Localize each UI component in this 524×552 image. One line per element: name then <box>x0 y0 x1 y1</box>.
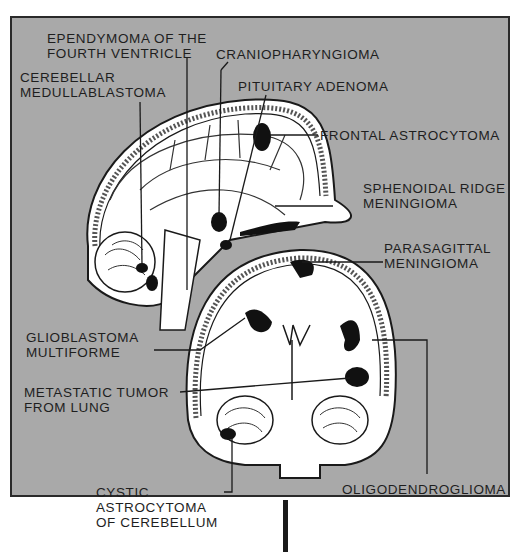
label-parasagittal-meningioma: PARASAGITTAL MENINGIOMA <box>384 241 491 271</box>
scan-artifact-bar <box>283 500 288 552</box>
label-cystic-astrocytoma: CYSTIC ASTROCYTOMA OF CEREBELLUM <box>96 485 218 530</box>
label-cerebellar-medulloblastoma: CEREBELLAR MEDULLABLASTOMA <box>20 70 166 100</box>
coronal-skull <box>187 250 396 478</box>
label-pituitary-adenoma: PITUITARY ADENOMA <box>238 79 388 94</box>
label-frontal-astrocytoma: FRONTAL ASTROCYTOMA <box>320 128 500 143</box>
label-craniopharyngioma: CRANIOPHARYNGIOMA <box>216 47 380 62</box>
label-metastatic-tumor: METASTATIC TUMOR FROM LUNG <box>24 385 169 415</box>
label-sphenoidal-ridge-meningioma: SPHENOIDAL RIDGE MENINGIOMA <box>363 181 506 211</box>
label-ependymoma: EPENDYMOMA OF THE FOURTH VENTRICLE <box>47 31 207 61</box>
label-glioblastoma-multiforme: GLIOBLASTOMA MULTIFORME <box>26 330 139 360</box>
label-oligodendroglioma: OLIGODENDROGLIOMA <box>342 482 506 497</box>
